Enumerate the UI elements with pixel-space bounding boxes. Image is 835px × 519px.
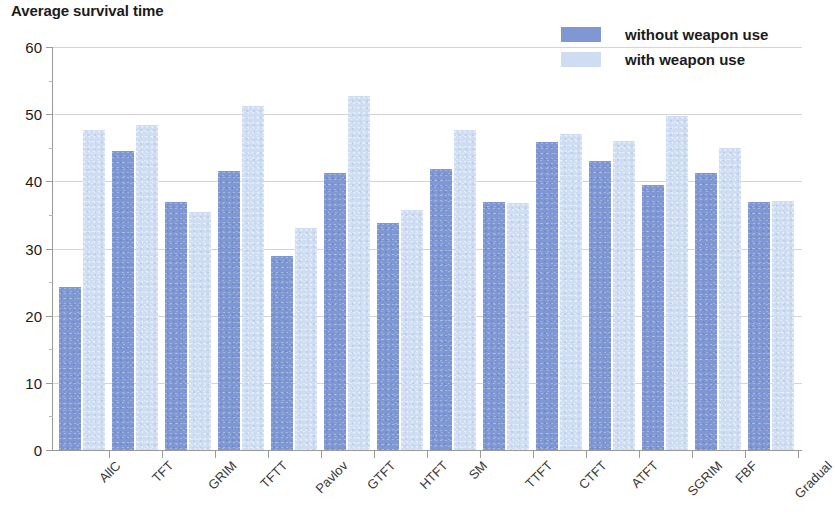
bar-tft-series0 (112, 151, 134, 450)
bar-pavlov-series0 (271, 256, 293, 450)
bar-atft-series1 (613, 141, 635, 450)
bar-ctft-series1 (560, 134, 582, 450)
bar-gradual-series0 (748, 202, 770, 450)
bar-gradual-series1 (772, 201, 794, 450)
x-tick-13 (798, 451, 799, 458)
gridline-60 (53, 47, 802, 48)
y-tick-label-0: 0 (2, 442, 42, 459)
x-tick-4 (321, 451, 322, 458)
x-tick-3 (268, 451, 269, 458)
x-tick-8 (533, 451, 534, 458)
gridline-50 (53, 114, 802, 115)
y-tick-label-60: 60 (2, 39, 42, 56)
y-tick-20 (46, 316, 53, 317)
x-label-atft: ATFT (628, 458, 661, 491)
legend-label-without-weapon-use: without weapon use (625, 26, 768, 43)
bar-sgrim-series0 (642, 185, 664, 450)
x-tick-5 (374, 451, 375, 458)
bar-ttft-series1 (507, 203, 529, 450)
y-minor-tick-45 (49, 148, 53, 149)
y-tick-40 (46, 181, 53, 182)
x-label-gradual: Gradual (792, 458, 835, 501)
bar-atft-series0 (589, 161, 611, 450)
gridline-40 (53, 181, 802, 182)
y-tick-0 (46, 450, 53, 451)
x-tick-11 (692, 451, 693, 458)
x-tick-2 (215, 451, 216, 458)
x-label-htft: HTFT (417, 458, 451, 492)
bar-sm-series0 (430, 169, 452, 450)
bar-sgrim-series1 (666, 116, 688, 450)
plot-area (53, 47, 802, 450)
x-label-ttft: TTFT (522, 458, 555, 491)
x-label-sgrim: SGRIM (684, 458, 725, 499)
y-tick-10 (46, 383, 53, 384)
x-tick-12 (745, 451, 746, 458)
y-axis-tick-labels: 0102030405060 (0, 0, 42, 519)
x-label-grim: GRIM (205, 458, 240, 493)
x-label-gtft: GTFT (364, 458, 399, 493)
y-tick-label-50: 50 (2, 106, 42, 123)
x-label-ctft: CTFT (576, 458, 610, 492)
x-label-tftt: TFTT (257, 458, 290, 491)
bar-fbf-series0 (695, 173, 717, 450)
legend-swatch-without-weapon-use (561, 27, 601, 42)
y-tick-60 (46, 47, 53, 48)
bar-allc-series0 (59, 287, 81, 450)
bar-pavlov-series1 (295, 228, 317, 450)
x-label-allc: AllC (96, 458, 123, 485)
bar-ttft-series0 (483, 202, 505, 450)
x-tick-6 (427, 451, 428, 458)
y-minor-tick-15 (49, 349, 53, 350)
x-tick-10 (639, 451, 640, 458)
bar-fbf-series1 (719, 148, 741, 450)
bar-gtft-series0 (324, 173, 346, 450)
bar-gtft-series1 (348, 96, 370, 450)
x-tick-0 (109, 451, 110, 458)
y-tick-label-10: 10 (2, 374, 42, 391)
legend-item-without-weapon-use: without weapon use (561, 22, 768, 47)
bar-sm-series1 (454, 130, 476, 450)
x-tick-1 (162, 451, 163, 458)
y-tick-label-30: 30 (2, 240, 42, 257)
bar-tft-series1 (136, 125, 158, 450)
y-tick-50 (46, 114, 53, 115)
bar-tftt-series1 (242, 106, 264, 450)
bar-allc-series1 (83, 130, 105, 450)
bar-ctft-series0 (536, 142, 558, 450)
x-tick-9 (586, 451, 587, 458)
y-minor-tick-25 (49, 282, 53, 283)
x-label-sm: SM (466, 458, 490, 482)
bar-tftt-series0 (218, 171, 240, 450)
x-label-tft: TFT (149, 458, 176, 485)
bar-htft-series1 (401, 210, 423, 450)
y-minor-tick-55 (49, 81, 53, 82)
bar-htft-series0 (377, 223, 399, 450)
y-tick-label-20: 20 (2, 307, 42, 324)
x-axis-category-labels: AllCTFTGRIMTFTTPavlovGTFTHTFTSMTTFTCTFTA… (53, 458, 802, 519)
x-label-pavlov: Pavlov (312, 458, 350, 496)
y-minor-tick-35 (49, 215, 53, 216)
x-label-fbf: FBF (732, 458, 760, 486)
y-tick-30 (46, 249, 53, 250)
bar-grim-series1 (189, 212, 211, 450)
y-tick-label-40: 40 (2, 173, 42, 190)
gridline-0 (53, 450, 802, 451)
bar-grim-series0 (165, 202, 187, 450)
y-minor-tick-5 (49, 416, 53, 417)
x-tick-7 (480, 451, 481, 458)
